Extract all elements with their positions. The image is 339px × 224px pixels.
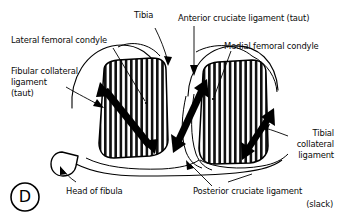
figure-panel: Tibia Anterior cruciate ligament (taut) … xyxy=(0,0,339,224)
label-tibia: Tibia xyxy=(134,10,153,20)
leader-arrow-anterior-cruciate xyxy=(190,65,198,76)
leader-arrow-posterior-cruciate xyxy=(186,160,194,170)
lateral-tibial-plateau xyxy=(99,58,168,158)
label-fibular-collateral-line2: ligament xyxy=(11,77,47,87)
leader-line-fibular-collateral xyxy=(66,87,99,105)
label-tibial-collateral-line3: ligament xyxy=(244,150,334,160)
label-tibial-collateral-line2: collateral xyxy=(244,139,334,149)
label-head-of-fibula: Head of fibula xyxy=(66,186,123,196)
label-anterior-cruciate-ligament: Anterior cruciate ligament (taut) xyxy=(178,13,309,23)
label-lateral-femoral-condyle: Lateral femoral condyle xyxy=(11,35,107,45)
tibial-upper-contour xyxy=(86,158,199,169)
label-posterior-cruciate-line1: Posterior cruciate ligament xyxy=(193,186,302,196)
label-fibular-collateral-line1: Fibular collateral xyxy=(11,66,78,76)
label-medial-femoral-condyle: Medial femoral condyle xyxy=(224,41,319,51)
label-fibular-collateral-line3: (taut) xyxy=(11,88,34,98)
label-tibial-collateral-line1: Tibial xyxy=(244,128,334,138)
panel-label-letter: D xyxy=(11,186,39,208)
leader-line-posterior-cruciate-secondary xyxy=(228,174,252,182)
label-posterior-cruciate-line2: (slack) xyxy=(230,199,333,209)
leader-dot-lateral-condyle xyxy=(145,102,147,104)
leader-dot-medial-condyle xyxy=(212,98,214,100)
